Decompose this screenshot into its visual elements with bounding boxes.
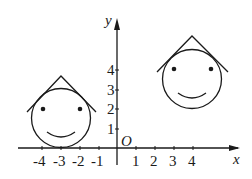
eye-icon xyxy=(209,67,214,72)
y-tick-label: 2 xyxy=(107,101,115,117)
eye-icon xyxy=(41,107,46,112)
x-tick-label: 3 xyxy=(169,153,177,169)
y-tick-label: 1 xyxy=(107,121,115,137)
eye-icon xyxy=(172,67,177,72)
left-face xyxy=(27,76,96,148)
x-tick-label: -3 xyxy=(53,153,66,169)
x-axis-label: x xyxy=(232,151,240,167)
smile-icon xyxy=(47,132,75,137)
coordinate-diagram: x y O -4 -3 -2 -1 1 2 3 4 1 2 3 4 xyxy=(0,0,252,179)
x-tick-label: 2 xyxy=(150,153,158,169)
smile-icon xyxy=(178,93,206,98)
x-tick-label: -1 xyxy=(91,153,104,169)
x-tick-label: -2 xyxy=(72,153,85,169)
x-tick-label: 4 xyxy=(188,153,196,169)
origin-label: O xyxy=(121,133,132,149)
eye-icon xyxy=(78,107,83,112)
x-tick-label: -4 xyxy=(33,153,46,169)
face-circle xyxy=(163,50,222,109)
hat-icon xyxy=(157,36,228,72)
y-axis-label: y xyxy=(103,12,112,28)
right-face xyxy=(157,36,228,109)
y-tick-label: 3 xyxy=(107,82,115,98)
y-tick-label: 4 xyxy=(107,62,115,78)
hat-icon xyxy=(27,76,96,112)
y-axis-arrow-icon xyxy=(114,18,120,30)
x-tick-label: 1 xyxy=(132,153,140,169)
